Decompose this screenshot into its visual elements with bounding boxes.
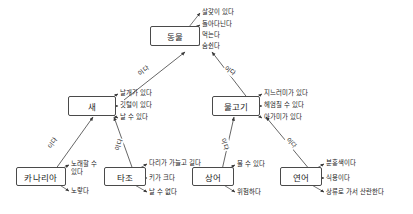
property-salmon-1: 분홍색이다 bbox=[326, 159, 356, 167]
property-bird-2: 깃털이 있다 bbox=[120, 101, 152, 109]
property-canary-2: 노랗다 bbox=[71, 187, 89, 195]
property-animal-2: 돌아다닌다 bbox=[202, 20, 232, 28]
property-canary-1: 노래할 수 있다 bbox=[71, 160, 99, 176]
property-fish-2: 헤엄칠 수 있다 bbox=[264, 101, 304, 109]
property-ostrich-3: 날 수 없다 bbox=[149, 188, 177, 196]
property-ostrich-2: 키가 크다 bbox=[149, 174, 175, 182]
node-fish[interactable]: 물고기 bbox=[212, 96, 260, 116]
property-fish-1: 지느러미가 있다 bbox=[264, 89, 308, 97]
semantic-network-diagram: 동물 새 물고기 카나리아 타조 상어 연어 살갗이 있다 돌아다닌다 먹는다 … bbox=[0, 0, 413, 214]
property-bird-1: 날개가 있다 bbox=[120, 89, 152, 97]
node-ostrich[interactable]: 타조 bbox=[104, 167, 146, 186]
property-shark-2: 위험하다 bbox=[237, 188, 261, 196]
node-animal-label: 동물 bbox=[167, 30, 184, 42]
node-salmon-label: 연어 bbox=[293, 171, 310, 183]
property-bird-3: 날 수 있다 bbox=[120, 113, 148, 121]
node-ostrich-label: 타조 bbox=[117, 171, 134, 183]
node-canary-label: 카나리아 bbox=[24, 171, 57, 183]
property-salmon-2: 식용이다 bbox=[326, 174, 350, 182]
property-animal-3: 먹는다 bbox=[202, 31, 220, 39]
property-fish-3: 아가미가 있다 bbox=[264, 113, 302, 121]
node-shark[interactable]: 상어 bbox=[192, 167, 234, 186]
property-ostrich-1: 다리가 가늘고 길다 bbox=[149, 159, 201, 167]
node-bird-label: 새 bbox=[88, 100, 96, 112]
property-shark-1: 물 수 있다 bbox=[237, 160, 265, 168]
node-canary[interactable]: 카나리아 bbox=[16, 167, 66, 186]
node-shark-label: 상어 bbox=[205, 171, 222, 183]
node-salmon[interactable]: 연어 bbox=[280, 167, 322, 186]
property-animal-4: 숨쉰다 bbox=[202, 42, 220, 50]
node-fish-label: 물고기 bbox=[224, 100, 249, 112]
property-salmon-3: 상류로 가서 산란한다 bbox=[326, 188, 384, 196]
property-animal-1: 살갗이 있다 bbox=[202, 8, 234, 16]
node-animal[interactable]: 동물 bbox=[150, 26, 200, 46]
node-bird[interactable]: 새 bbox=[68, 96, 116, 116]
